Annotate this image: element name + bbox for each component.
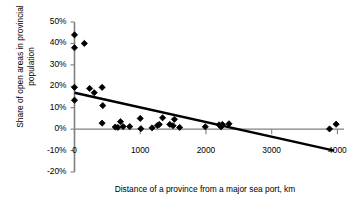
data-point	[71, 32, 77, 38]
y-axis-tick-label: 0%	[33, 123, 67, 133]
data-point	[100, 102, 106, 108]
data-point	[71, 97, 77, 103]
y-axis-tick-label: 10%	[33, 102, 67, 112]
data-point	[171, 116, 177, 122]
data-point	[71, 45, 77, 51]
y-axis-tick-label: 30%	[33, 59, 67, 69]
data-point	[138, 126, 144, 132]
data-point	[99, 120, 105, 126]
data-point	[333, 121, 339, 127]
x-axis-tick-label: 0	[55, 145, 95, 155]
y-axis-tick-label: 40%	[33, 37, 67, 47]
data-point	[326, 126, 332, 132]
x-axis-tick-label: 3000	[252, 145, 292, 155]
x-axis-tick-label: 4000	[317, 145, 357, 155]
data-point	[81, 40, 87, 46]
y-axis-tick-label: 50%	[33, 16, 67, 26]
data-point	[137, 115, 143, 121]
data-point	[91, 90, 97, 96]
y-axis-tick-label: -20%	[33, 166, 67, 176]
x-axis-tick-label: 2000	[186, 145, 226, 155]
x-axis-tick-label: 1000	[120, 145, 160, 155]
data-point	[159, 115, 165, 121]
scatter-chart: Share of open areas in provincial popula…	[0, 0, 357, 207]
y-axis-tick-label: 20%	[33, 80, 67, 90]
data-point	[71, 84, 77, 90]
data-point	[87, 85, 93, 91]
data-point	[99, 84, 105, 90]
